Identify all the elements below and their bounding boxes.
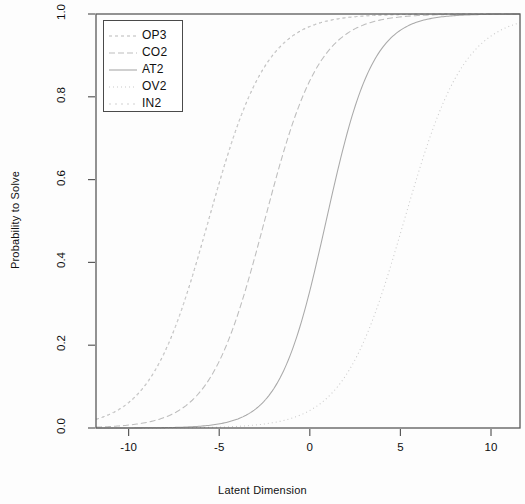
- legend-label: OV2: [142, 80, 167, 93]
- legend-item-op3: OP3: [104, 27, 184, 44]
- legend-line-sample: [108, 31, 138, 41]
- x-axis-title: Latent Dimension: [0, 484, 525, 496]
- y-tick-label: 0.4: [55, 243, 67, 277]
- legend-item-co2: CO2: [104, 44, 184, 61]
- chart-figure: OP3CO2AT2OV2IN2 -10-50510 0.00.20.40.60.…: [0, 0, 525, 504]
- legend-line-sample: [108, 48, 138, 58]
- legend-line-sample: [108, 65, 138, 75]
- y-tick-label: 0.8: [55, 78, 67, 112]
- legend-line-sample: [108, 99, 138, 109]
- legend-item-ov2: OV2: [104, 78, 184, 95]
- chart-legend: OP3CO2AT2OV2IN2: [103, 20, 183, 112]
- y-tick-label: 1.0: [55, 0, 67, 29]
- y-tick-label: 0.2: [55, 326, 67, 360]
- legend-item-at2: AT2: [104, 61, 184, 78]
- y-tick-label: 0.0: [55, 409, 67, 443]
- x-tick-label: -5: [199, 441, 239, 453]
- legend-label: IN2: [142, 97, 161, 110]
- y-axis-title-wrap: Probability to Solve: [0, 0, 30, 440]
- y-axis-title: Probability to Solve: [9, 171, 21, 269]
- x-tick-label: 0: [290, 441, 330, 453]
- legend-item-in2: IN2: [104, 95, 184, 112]
- x-tick-label: 5: [380, 441, 420, 453]
- legend-label: OP3: [142, 29, 167, 42]
- legend-label: CO2: [142, 46, 167, 59]
- x-tick-label: -10: [109, 441, 149, 453]
- legend-label: AT2: [142, 63, 164, 76]
- chart-plot-area: [0, 0, 525, 504]
- x-tick-label: 10: [471, 441, 511, 453]
- legend-line-sample: [108, 82, 138, 92]
- y-tick-label: 0.6: [55, 161, 67, 195]
